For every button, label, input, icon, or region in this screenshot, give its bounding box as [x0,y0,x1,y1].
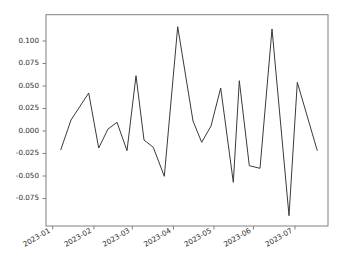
line-chart: 0.100 0.075 0.050 0.025 0.000 -0.025 -0.… [0,0,352,274]
y-tick-marks [43,41,47,199]
x-tick-label: 2023-01 [21,226,52,249]
plot-area-background [46,15,328,226]
x-tick-label: 2023-02 [62,226,93,249]
x-tick-label: 2023-05 [182,226,213,249]
x-tick-label: 2023-04 [142,226,173,249]
y-tick-labels: 0.100 0.075 0.050 0.025 0.000 -0.025 -0.… [16,36,40,203]
y-tick-label: -0.050 [16,171,40,180]
y-tick-label: -0.025 [16,148,39,157]
y-tick-label: -0.075 [16,193,39,202]
y-tick-label: 0.075 [18,58,39,67]
y-tick-label: 0.000 [18,126,39,135]
x-tick-label: 2023-06 [222,226,253,249]
y-tick-label: 0.025 [18,103,39,112]
matplotlib-figure: 0.100 0.075 0.050 0.025 0.000 -0.025 -0.… [0,0,352,274]
y-tick-label: 0.050 [18,81,39,90]
y-tick-label: 0.100 [18,36,39,45]
x-tick-label: 2023-07 [263,226,294,249]
x-tick-label: 2023-03 [101,226,132,249]
